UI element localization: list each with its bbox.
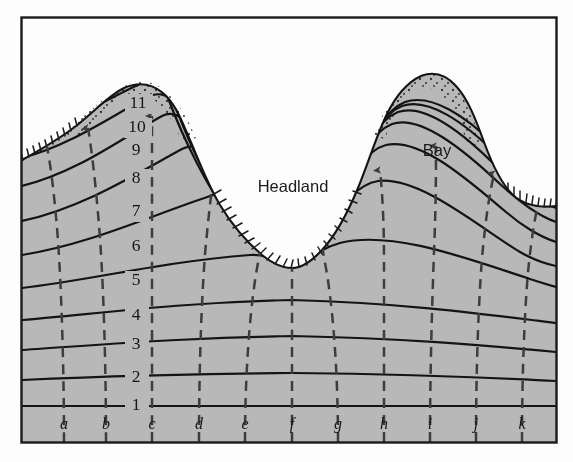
ray-label-j: j <box>472 415 479 433</box>
ray-label-e: e <box>241 415 248 432</box>
ray-label-h: h <box>380 415 388 432</box>
headland-label: Headland <box>258 177 329 195</box>
ray-label-a: a <box>60 415 68 432</box>
crest-label-2: 2 <box>132 366 141 386</box>
bay-label: Bay <box>423 141 452 159</box>
crest-label-5: 5 <box>132 269 141 289</box>
crest-label-9: 9 <box>132 139 141 159</box>
crest-label-7: 7 <box>132 200 141 220</box>
ray-label-c: c <box>148 415 155 432</box>
crest-label-1: 1 <box>132 394 141 414</box>
wave-refraction-figure: 1 2 3 4 5 6 7 8 9 10 11 a b c d e f g h … <box>0 0 573 462</box>
wave-refraction-diagram: 1 2 3 4 5 6 7 8 9 10 11 a b c d e f g h … <box>0 0 573 462</box>
ray-label-b: b <box>102 415 110 432</box>
crest-label-6: 6 <box>132 235 141 255</box>
crest-label-3: 3 <box>132 333 141 353</box>
ray-label-g: g <box>334 415 342 433</box>
ray-label-d: d <box>195 415 204 432</box>
crest-label-11: 11 <box>130 92 147 112</box>
crest-label-10: 10 <box>128 116 146 136</box>
ray-label-i: i <box>428 415 432 432</box>
crest-label-8: 8 <box>132 167 141 187</box>
ray-label-k: k <box>518 415 526 432</box>
crest-label-4: 4 <box>132 304 141 324</box>
